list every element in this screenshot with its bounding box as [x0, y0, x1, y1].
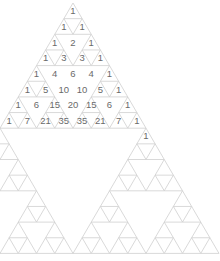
cell-triangle	[183, 238, 201, 254]
pascal-number: 6	[34, 99, 39, 110]
cell-triangle	[164, 238, 182, 254]
pascal-number: 21	[95, 115, 106, 126]
cell-triangle	[9, 160, 27, 176]
pascal-number: 6	[107, 99, 112, 110]
cell-triangle	[110, 175, 128, 191]
pascal-number: 1	[6, 115, 11, 126]
cell-triangle	[110, 238, 128, 254]
cell-triangle	[18, 238, 36, 254]
pascal-number: 1	[52, 37, 57, 48]
pascal-number: 1	[125, 99, 130, 110]
pascal-number: 35	[59, 115, 70, 126]
cell-triangle	[128, 238, 146, 254]
cell-triangle	[0, 175, 18, 191]
sierpinski-pascal-diagram: 1111211331146411510105116152015611721353…	[0, 0, 220, 261]
cell-triangle	[91, 206, 109, 222]
pascal-number: 1	[70, 5, 75, 16]
cell-triangle	[146, 144, 164, 160]
pascal-number: 10	[77, 84, 88, 95]
pascal-number: 1	[79, 21, 84, 32]
pascal-number: 1	[143, 130, 148, 141]
cell-triangle	[18, 206, 36, 222]
cell-triangle	[46, 222, 64, 238]
pascal-number: 20	[68, 99, 79, 110]
cell-triangle	[128, 175, 146, 191]
pascal-number: 3	[61, 52, 66, 63]
pascal-number: 7	[25, 115, 30, 126]
pascal-number: 4	[52, 68, 57, 79]
pascal-number: 1	[43, 52, 48, 63]
cell-triangle	[128, 144, 146, 160]
cell-triangle	[0, 238, 18, 254]
pascal-number: 1	[16, 99, 21, 110]
pascal-number: 4	[89, 68, 94, 79]
cell-triangle	[27, 191, 45, 207]
pascal-number: 1	[25, 84, 30, 95]
pascal-number: 1	[107, 68, 112, 79]
cell-triangle	[82, 222, 100, 238]
pascal-number: 1	[134, 115, 139, 126]
cell-triangle	[146, 175, 164, 191]
cell-triangle	[164, 206, 182, 222]
cell-triangle	[0, 144, 18, 160]
cell-triangle	[100, 191, 118, 207]
cell-triangle	[37, 206, 55, 222]
cell-triangle	[183, 206, 201, 222]
pascal-number: 1	[89, 37, 94, 48]
pascal-number: 1	[61, 21, 66, 32]
cell-triangle	[110, 206, 128, 222]
cell-triangle	[155, 222, 173, 238]
pascal-number: 6	[70, 68, 75, 79]
cell-triangle	[55, 238, 73, 254]
cell-triangle	[119, 160, 137, 176]
pascal-number: 1	[34, 68, 39, 79]
pascal-number: 1	[98, 52, 103, 63]
cell-triangle	[37, 238, 55, 254]
pascal-number: 3	[79, 52, 84, 63]
cell-triangle	[201, 238, 219, 254]
cell-triangle	[73, 238, 91, 254]
cell-triangle	[0, 128, 9, 144]
cell-triangle	[18, 175, 36, 191]
cell-triangle	[192, 222, 210, 238]
pascal-number: 35	[77, 115, 88, 126]
pascal-number: 21	[40, 115, 51, 126]
pascal-number: 10	[59, 84, 70, 95]
cell-triangle	[119, 222, 137, 238]
pascal-number: 7	[116, 115, 121, 126]
triangle-grid	[0, 3, 219, 253]
pascal-number: 15	[86, 99, 97, 110]
cell-triangle	[164, 175, 182, 191]
cell-triangle	[146, 238, 164, 254]
cell-triangle	[155, 160, 173, 176]
cell-triangle	[9, 222, 27, 238]
pascal-number: 5	[43, 84, 48, 95]
pascal-number: 15	[49, 99, 60, 110]
pascal-number: 5	[98, 84, 103, 95]
pascal-number: 2	[70, 37, 75, 48]
cell-triangle	[91, 238, 109, 254]
pascal-number: 1	[116, 84, 121, 95]
cell-triangle	[173, 191, 191, 207]
